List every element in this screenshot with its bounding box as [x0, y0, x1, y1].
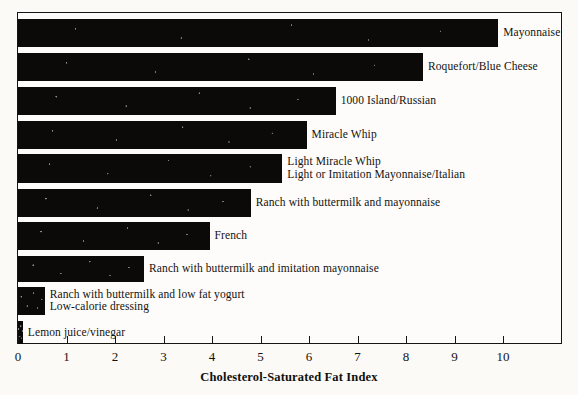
bar [18, 121, 307, 149]
bar [18, 87, 336, 115]
x-axis-tick-label: 1 [63, 349, 70, 365]
bar [18, 53, 423, 81]
bar-label: Miracle Whip [312, 128, 377, 141]
x-axis-tick [261, 336, 262, 343]
bar-label: Mayonnaise [503, 26, 560, 39]
bar-label: Ranch with buttermilk and mayonnaise [256, 196, 440, 209]
x-axis-tick-label: 10 [497, 349, 510, 365]
x-axis-title: Cholesterol-Saturated Fat Index [0, 370, 578, 385]
x-axis-tick-label: 6 [306, 349, 313, 365]
x-axis-tick [406, 336, 407, 343]
bar [18, 256, 144, 282]
bar-label: Ranch with buttermilk and low fat yogurt… [50, 288, 245, 313]
x-axis-tick-label: 3 [160, 349, 167, 365]
bar-series: MayonnaiseRoquefort/Blue Cheese1000 Isla… [18, 13, 562, 343]
x-axis-tick-label: 8 [403, 349, 410, 365]
x-axis-tick-label: 9 [451, 349, 458, 365]
bar-label: Roquefort/Blue Cheese [428, 60, 538, 73]
bar-label: Lemon juice/vinegar [28, 326, 125, 339]
x-axis-tick [115, 336, 116, 343]
bar [18, 19, 498, 47]
bar-label: Light Miracle Whip Light or Imitation Ma… [287, 155, 465, 180]
bar [18, 287, 45, 315]
bar [18, 222, 210, 250]
x-axis-tick [309, 336, 310, 343]
bar-label: Ranch with buttermilk and imitation mayo… [149, 262, 379, 275]
x-axis-tick [212, 336, 213, 343]
x-axis-tick [18, 336, 19, 343]
x-axis-tick [358, 336, 359, 343]
x-axis-tick [67, 336, 68, 343]
x-axis-tick [455, 336, 456, 343]
x-axis: 012345678910 [18, 343, 562, 344]
x-axis-tick [164, 336, 165, 343]
bar-label: 1000 Island/Russian [341, 94, 437, 107]
x-axis-tick-label: 2 [112, 349, 119, 365]
figure-page: MayonnaiseRoquefort/Blue Cheese1000 Isla… [0, 0, 578, 395]
x-axis-tick-label: 7 [354, 349, 361, 365]
x-axis-tick-label: 5 [257, 349, 264, 365]
bar-label: French [215, 229, 248, 242]
bar [18, 189, 251, 217]
x-axis-tick [503, 336, 504, 343]
x-axis-tick-label: 4 [209, 349, 216, 365]
bar [18, 154, 282, 183]
x-axis-tick-label: 0 [15, 349, 22, 365]
